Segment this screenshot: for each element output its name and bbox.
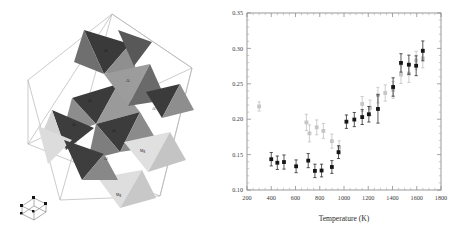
data-point [305,114,309,130]
x-tick-label: 800 [315,194,324,201]
data-point [321,123,325,138]
data-point [407,55,411,74]
unit-cell-axes-indicator [20,196,47,220]
label-al: Al [104,49,108,53]
polyhedra-group [38,30,194,208]
data-point [257,102,261,111]
data-point [352,112,356,126]
data-point [391,78,395,96]
data-point [294,160,298,173]
data-point [313,164,317,177]
label-al: Al [112,129,116,133]
axis-vertex-dots [20,196,47,214]
data-point [383,85,387,101]
y-tick-label: 0.35 [232,9,243,16]
figure-root: Al Al Al Al Al Al Al Mg Mg [0,0,452,236]
label-mg: Mg [116,193,121,197]
crystal-structure-panel: Al Al Al Al Al Al Al Mg Mg [0,0,215,236]
data-point [315,120,319,135]
y-tick-label: 0.10 [232,186,243,193]
x-tick-label: 1000 [338,194,350,201]
x-tick-label: 1400 [386,194,398,201]
y-tick-labels: 0.100.150.200.250.300.35 [232,9,243,193]
x-tick-labels: 20040060080010001200140016001800 [242,194,447,201]
x-tick-label: 1800 [435,194,447,201]
x-tick-label: 1200 [362,194,374,201]
x-tick-label: 600 [291,194,300,201]
x-tick-label: 400 [267,194,276,201]
data-point [320,164,324,177]
data-point [360,97,364,112]
data-point [376,95,380,123]
scatter-plot-panel: 20040060080010001200140016001800 0.100.1… [215,0,452,236]
scatter-plot-svg: 20040060080010001200140016001800 0.100.1… [215,0,452,236]
series-dark [269,41,424,178]
y-tick-label: 0.20 [232,115,243,122]
y-tick-label: 0.25 [232,80,243,87]
label-mg: Mg [140,149,145,153]
label-al: Al [72,123,76,127]
x-tick-label: 1600 [411,194,423,201]
crystal-structure-svg: Al Al Al Al Al Al Al Mg Mg [0,0,215,236]
x-tick-label: 200 [242,194,251,201]
x-axis-label: Temperature (K) [319,214,370,223]
label-al: Al [126,79,130,83]
data-point [345,115,349,128]
data-point [308,125,312,142]
data-point [275,156,279,169]
label-al: Al [104,157,108,161]
label-al: Al [88,99,92,103]
data-point [269,152,273,165]
data-point [282,155,286,169]
data-point [399,54,403,72]
data-point [330,134,334,148]
y-tick-label: 0.30 [232,45,243,52]
data-point [360,110,364,125]
data-point [306,154,310,168]
y-tick-label: 0.15 [232,151,243,158]
data-point [330,161,334,174]
label-al: Al [152,107,156,111]
